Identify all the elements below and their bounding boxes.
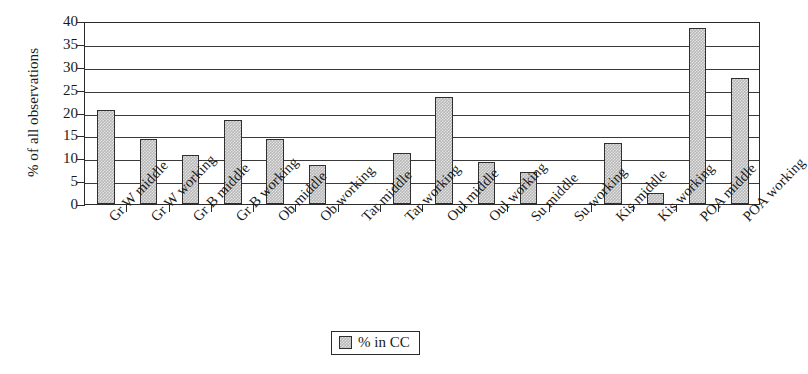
gridline [85,92,759,93]
y-tick-label: 30 [38,60,78,75]
legend-label: % in CC [358,335,410,350]
legend-swatch-icon [339,336,352,349]
y-tick-label: 0 [38,197,78,212]
y-tick-label: 10 [38,151,78,166]
bar [97,110,115,204]
chart-legend: % in CC [331,331,420,355]
y-tick-label: 35 [38,37,78,52]
y-tick-label: 20 [38,106,78,121]
gridline [85,69,759,70]
gridline [85,46,759,47]
gridline [85,115,759,116]
y-tick-label: 15 [38,128,78,143]
y-tick-label: 40 [38,14,78,29]
y-tick-label: 25 [38,83,78,98]
gridline [85,137,759,138]
y-tick-label: 5 [38,174,78,189]
